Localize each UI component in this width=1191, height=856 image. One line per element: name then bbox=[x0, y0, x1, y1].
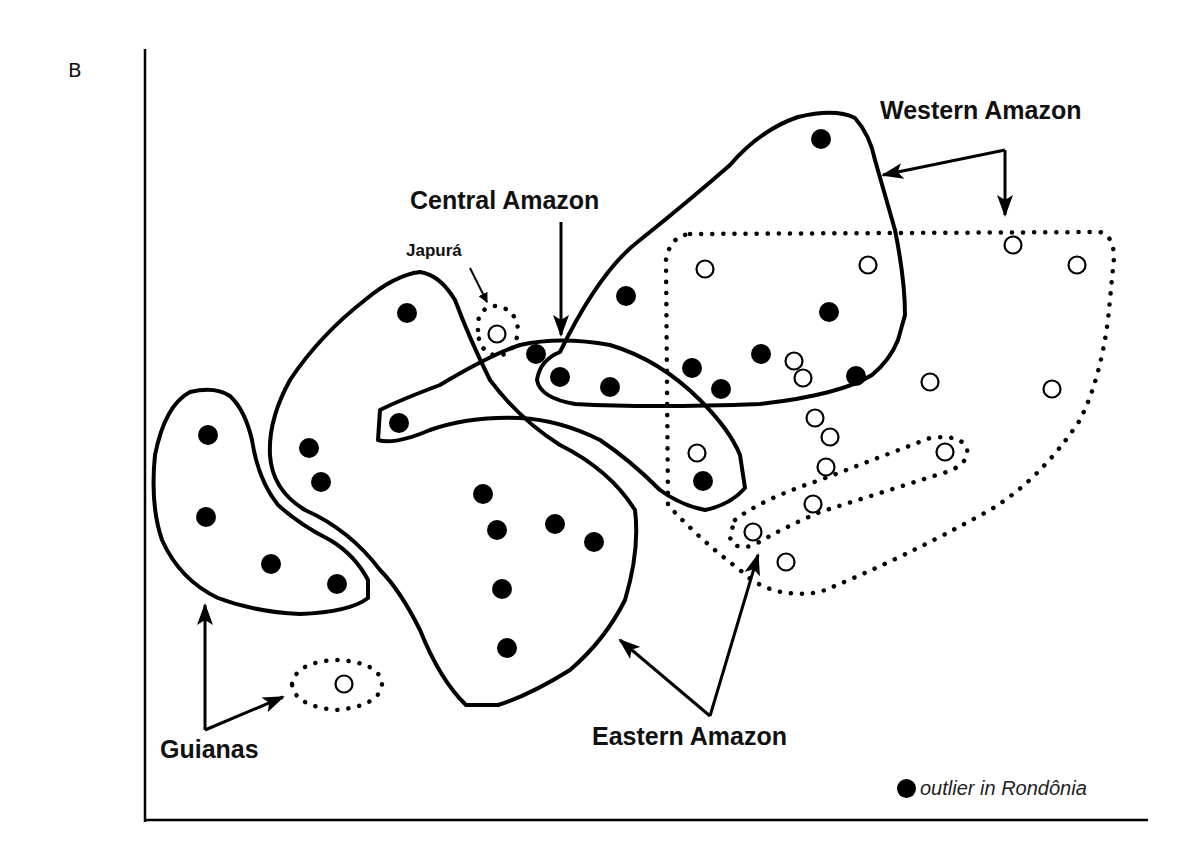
open-point bbox=[1005, 237, 1022, 254]
filled-point bbox=[389, 413, 409, 433]
open-point bbox=[745, 524, 762, 541]
filled-point bbox=[526, 344, 546, 364]
open-point bbox=[807, 410, 824, 427]
western-amazon-outline bbox=[537, 113, 905, 406]
open-point bbox=[1069, 257, 1086, 274]
open-point bbox=[922, 374, 939, 391]
open-point bbox=[689, 445, 706, 462]
filled-point bbox=[584, 532, 604, 552]
filled-point bbox=[846, 366, 866, 386]
filled-point bbox=[261, 554, 281, 574]
filled-point bbox=[198, 425, 218, 445]
open-point bbox=[822, 429, 839, 446]
filled-point bbox=[550, 367, 570, 387]
filled-point bbox=[327, 574, 347, 594]
label-eastern-amazon: Eastern Amazon bbox=[592, 722, 787, 751]
filled-point bbox=[811, 129, 831, 149]
filled-point bbox=[751, 344, 771, 364]
open-point bbox=[489, 326, 506, 343]
filled-point bbox=[397, 303, 417, 323]
japura-arrow bbox=[470, 268, 487, 302]
filled-point bbox=[311, 472, 331, 492]
open-point bbox=[786, 353, 803, 370]
open-point bbox=[1044, 381, 1061, 398]
open-point bbox=[818, 459, 835, 476]
filled-point bbox=[196, 507, 216, 527]
filled-point bbox=[616, 286, 636, 306]
label-western-amazon: Western Amazon bbox=[880, 96, 1081, 125]
filled-point bbox=[819, 302, 839, 322]
legend: outlier in Rondônia bbox=[897, 777, 1087, 800]
filled-point bbox=[600, 377, 620, 397]
open-point bbox=[937, 444, 954, 461]
filled-point bbox=[711, 379, 731, 399]
open-point bbox=[778, 554, 795, 571]
filled-point bbox=[492, 579, 512, 599]
western-arrow-to-solid bbox=[883, 150, 1005, 175]
legend-text: outlier in Rondônia bbox=[920, 777, 1087, 800]
open-point bbox=[805, 496, 822, 513]
western-amazon-dotted-outline bbox=[666, 232, 1114, 594]
filled-point bbox=[473, 484, 493, 504]
open-point bbox=[697, 261, 714, 278]
label-central-amazon: Central Amazon bbox=[410, 186, 599, 215]
filled-point bbox=[682, 358, 702, 378]
filled-point bbox=[299, 438, 319, 458]
filled-point bbox=[497, 638, 517, 658]
filled-point bbox=[545, 514, 565, 534]
filled-point bbox=[693, 471, 713, 491]
label-guianas: Guianas bbox=[160, 735, 259, 764]
guianas-arrow-right bbox=[205, 697, 283, 730]
eastern-arrow-left bbox=[620, 640, 710, 716]
open-point bbox=[336, 676, 353, 693]
eastern-arrow-right bbox=[710, 555, 758, 716]
open-point bbox=[860, 257, 877, 274]
eastern-amazon-dotted-outline bbox=[730, 437, 967, 547]
filled-circle-icon bbox=[897, 779, 916, 798]
data-points bbox=[196, 129, 1086, 693]
filled-point bbox=[487, 520, 507, 540]
open-point bbox=[795, 370, 812, 387]
label-japura: Japurá bbox=[406, 241, 462, 261]
